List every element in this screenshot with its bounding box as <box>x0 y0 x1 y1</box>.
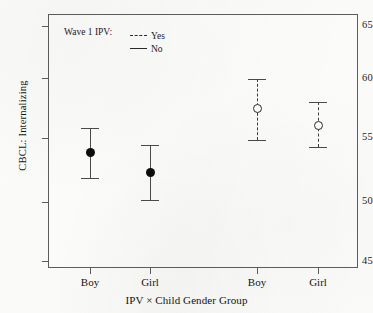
y-tick-label-45: 45 <box>351 256 373 267</box>
y-tick-mark-55 <box>42 138 48 139</box>
solid-line-icon <box>130 48 147 49</box>
y-tick-label-60: 60 <box>351 73 373 84</box>
legend-label-no: No <box>151 44 163 54</box>
error-bar-cap-lower <box>81 178 99 179</box>
y-tick-label-50: 50 <box>351 196 373 207</box>
x-tick-mark-2 <box>150 268 151 274</box>
y-tick-label-65: 65 <box>351 20 373 31</box>
chart-figure: 65 60 55 50 45 Boy Girl Boy Girl IPV × C… <box>0 0 373 313</box>
legend-entry-no: No <box>130 39 163 57</box>
legend-title: Wave 1 IPV: <box>64 27 112 37</box>
x-tick-mark-4 <box>318 268 319 274</box>
error-bar-cap-upper <box>81 128 99 129</box>
y-tick-mark-50 <box>42 202 48 203</box>
y-axis-title: CBCL: Internalizing <box>17 51 28 201</box>
x-tick-mark-1 <box>90 268 91 274</box>
y-tick-label-55: 55 <box>351 132 373 143</box>
marker-filled-circle <box>86 148 95 157</box>
y-tick-mark-60 <box>42 78 48 79</box>
x-tick-label-girl-no: Girl <box>120 277 180 288</box>
dashed-line-icon <box>130 35 147 36</box>
y-tick-mark-45 <box>42 261 48 262</box>
error-bar-cap-lower <box>309 147 327 148</box>
error-bar-cap-upper <box>141 145 159 146</box>
x-tick-label-boy-no: Boy <box>60 277 120 288</box>
x-tick-mark-3 <box>257 268 258 274</box>
error-bar-cap-upper <box>309 102 327 103</box>
plot-area <box>48 14 358 268</box>
x-tick-label-girl-yes: Girl <box>288 277 348 288</box>
y-tick-mark-65 <box>42 26 48 27</box>
error-bar-cap-upper <box>248 79 266 80</box>
error-bar-cap-lower <box>141 200 159 201</box>
marker-open-circle <box>253 104 262 113</box>
x-axis-title: IPV × Child Gender Group <box>0 294 373 306</box>
marker-filled-circle <box>146 168 155 177</box>
marker-open-circle <box>314 121 323 130</box>
x-tick-label-boy-yes: Boy <box>227 277 287 288</box>
error-bar-cap-lower <box>248 140 266 141</box>
